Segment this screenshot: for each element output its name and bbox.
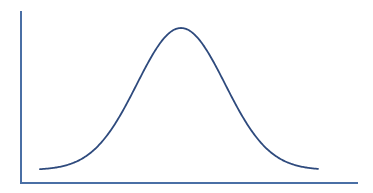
chart-canvas <box>0 0 373 193</box>
bell-curve-figure <box>0 0 373 193</box>
